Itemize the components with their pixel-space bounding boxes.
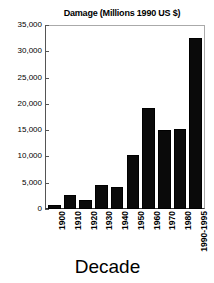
x-tick-label: 1990-1995 (189, 211, 202, 257)
bar (95, 185, 108, 209)
bar (142, 108, 155, 209)
x-tick-label: 1970 (158, 211, 171, 257)
y-tick-label: 5,000 (0, 179, 42, 187)
y-tick-label: 20,000 (0, 100, 42, 108)
bar (48, 205, 61, 209)
x-axis: 1900191019201930194019501960197019801990… (46, 211, 204, 257)
x-tick-label: 1910 (64, 211, 77, 257)
x-tick-label: 1950 (127, 211, 140, 257)
y-tick-mark (45, 209, 49, 210)
y-tick-label: 35,000 (0, 21, 42, 29)
x-tick-label: 1960 (142, 211, 155, 257)
x-tick-label: 1940 (111, 211, 124, 257)
x-tick-label: 1930 (95, 211, 108, 257)
bar (64, 195, 77, 209)
x-axis-title: Decade (40, 256, 175, 278)
bar (174, 129, 187, 209)
bar (79, 200, 92, 209)
y-tick-mark (45, 156, 49, 157)
y-tick-label: 10,000 (0, 152, 42, 160)
y-tick-label: 30,000 (0, 47, 42, 55)
y-tick-label: 25,000 (0, 74, 42, 82)
y-tick-mark (45, 130, 49, 131)
bar (127, 155, 140, 209)
y-tick-mark (45, 78, 49, 79)
x-tick-label: 1900 (48, 211, 61, 257)
y-tick-mark (45, 104, 49, 105)
bar (158, 130, 171, 209)
bar (111, 187, 124, 209)
y-tick-label: 0 (0, 205, 42, 213)
x-tick-label: 1920 (79, 211, 92, 257)
y-tick-mark (45, 183, 49, 184)
y-tick-label: 15,000 (0, 126, 42, 134)
bar-series (46, 25, 204, 209)
chart-figure: Damage (Millions 1990 US $) 05,00010,000… (0, 0, 214, 283)
x-tick-label: 1980 (174, 211, 187, 257)
y-tick-mark (45, 25, 49, 26)
y-tick-mark (45, 51, 49, 52)
chart-title: Damage (Millions 1990 US $) (34, 8, 210, 19)
x-tick-label-text: 1990-1995 (200, 211, 209, 252)
y-axis: 05,00010,00015,00020,00025,00030,00035,0… (0, 25, 42, 209)
bar (189, 38, 202, 209)
